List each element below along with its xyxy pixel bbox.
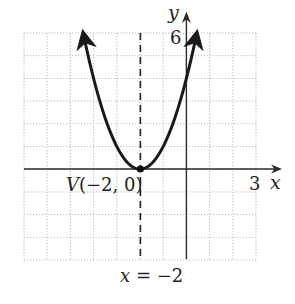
axis-of-symmetry-label: x = −2 [120, 265, 183, 286]
parabola-graph: y 6 x 3 V(−2, 0) x = −2 [0, 0, 295, 304]
vertex-label: V(−2, 0) [66, 174, 142, 195]
y-axis-label: y [167, 1, 179, 23]
axis-eq-value: = −2 [130, 265, 183, 286]
x-tick-label-3: 3 [249, 173, 260, 194]
vertex-point [137, 165, 144, 172]
parabola-curve [83, 33, 197, 169]
y-tick-label-6: 6 [170, 27, 181, 48]
x-axis-label: x [270, 171, 281, 193]
vertex-coords: (−2, 0) [79, 174, 142, 195]
axis-eq-variable: x [120, 265, 130, 286]
